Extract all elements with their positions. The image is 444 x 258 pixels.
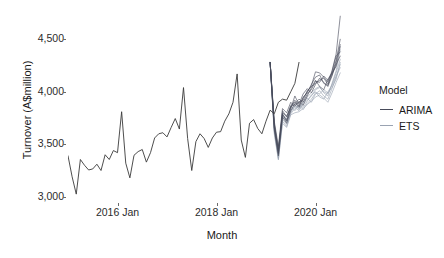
chart-figure: Turnover (A$million) 3,0003,5004,0004,50… xyxy=(0,0,444,258)
y-tick-label: 3,500 xyxy=(4,137,64,149)
legend-items: ARIMAETS xyxy=(379,102,441,133)
plot-lines xyxy=(68,12,365,202)
x-axis-title: Month xyxy=(0,229,444,241)
y-tick-mark xyxy=(63,39,66,40)
plot-panel xyxy=(68,12,365,202)
legend-title: Model xyxy=(379,84,441,96)
y-tick-mark xyxy=(63,144,66,145)
y-tick-label: 4,500 xyxy=(4,32,64,44)
legend: Model ARIMAETS xyxy=(379,84,441,134)
legend-key-line-icon xyxy=(379,120,394,131)
legend-key-line-icon xyxy=(379,104,394,115)
y-tick-label: 3,000 xyxy=(4,190,64,202)
x-tick-mark xyxy=(316,203,317,206)
y-axis-tick-labels: 3,0003,5004,0004,500 xyxy=(0,0,64,258)
legend-label: ARIMA xyxy=(399,104,432,116)
x-tick-label: 2018 Jan xyxy=(195,206,238,218)
legend-item-ets[interactable]: ETS xyxy=(379,118,441,133)
legend-label: ETS xyxy=(399,120,419,132)
x-tick-mark xyxy=(217,203,218,206)
legend-item-arima[interactable]: ARIMA xyxy=(379,102,441,117)
x-tick-mark xyxy=(118,203,119,206)
x-tick-label: 2020 Jan xyxy=(294,206,337,218)
history-line xyxy=(68,62,299,194)
y-tick-mark xyxy=(63,197,66,198)
y-tick-label: 4,000 xyxy=(4,85,64,97)
x-tick-label: 2016 Jan xyxy=(96,206,139,218)
y-tick-mark xyxy=(63,92,66,93)
